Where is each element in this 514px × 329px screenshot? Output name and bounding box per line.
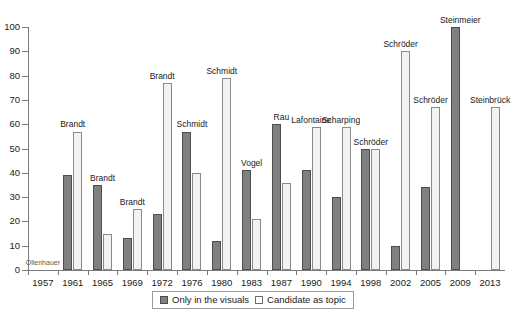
bar-annotation-label: Ollenhauer <box>13 258 73 267</box>
x-tick <box>386 270 387 275</box>
x-tick <box>326 270 327 275</box>
x-tick-label: 1980 <box>207 278 237 288</box>
x-tick <box>147 270 148 275</box>
x-tick-label: 1983 <box>237 278 267 288</box>
legend-label-topic: Candidate as topic <box>267 294 346 305</box>
x-tick <box>177 270 178 275</box>
x-tick-label: 1976 <box>177 278 207 288</box>
x-tick <box>267 270 268 275</box>
bar-annotation-label: Vogel <box>222 159 282 168</box>
bar-candidate-as-topic <box>431 107 440 270</box>
y-tick-label: 10 <box>0 241 20 251</box>
bar-only-in-the-visuals <box>451 27 460 270</box>
x-tick <box>207 270 208 275</box>
bar-annotation-label: Brandt <box>73 174 133 183</box>
x-tick <box>296 270 297 275</box>
x-tick-label: 2013 <box>475 278 505 288</box>
bar-candidate-as-topic <box>163 83 172 270</box>
x-tick-label: 1998 <box>356 278 386 288</box>
bar-candidate-as-topic <box>103 234 112 270</box>
x-tick-label: 2005 <box>415 278 445 288</box>
chart-legend: Only in the visuals Candidate as topic <box>152 291 354 309</box>
bar-annotation-label: Steinmeier <box>430 16 490 25</box>
x-tick <box>117 270 118 275</box>
bar-only-in-the-visuals <box>212 241 221 270</box>
bar-annotation-label: Brandt <box>132 72 192 81</box>
bar-candidate-as-topic <box>401 51 410 270</box>
y-tick-label: 60 <box>0 119 20 129</box>
bar-annotation-label: Schröder <box>371 40 431 49</box>
x-tick-label: 2002 <box>386 278 416 288</box>
bar-annotation-label: Schröder <box>341 138 401 147</box>
bar-candidate-as-topic <box>342 127 351 270</box>
x-tick <box>445 270 446 275</box>
bar-only-in-the-visuals <box>182 132 191 271</box>
legend-item-visuals: Only in the visuals <box>160 294 249 305</box>
x-tick <box>58 270 59 275</box>
bar-only-in-the-visuals <box>272 124 281 270</box>
bar-candidate-as-topic <box>312 127 321 270</box>
x-tick <box>28 270 29 275</box>
x-tick-label: 1972 <box>147 278 177 288</box>
x-tick <box>356 270 357 275</box>
bar-only-in-the-visuals <box>332 197 341 270</box>
bar-candidate-as-topic <box>73 132 82 271</box>
x-tick-label: 1969 <box>117 278 147 288</box>
bar-candidate-as-topic <box>282 183 291 270</box>
plot-area <box>28 27 505 270</box>
bar-only-in-the-visuals <box>421 187 430 270</box>
y-tick-label: 20 <box>0 216 20 226</box>
bar-annotation-label: Schmidt <box>162 120 222 129</box>
y-tick-label: 40 <box>0 168 20 178</box>
bar-annotation-label: Schmidt <box>192 67 252 76</box>
legend-swatch-visuals-icon <box>160 296 168 304</box>
x-tick-label: 1961 <box>58 278 88 288</box>
x-tick-label: 1987 <box>266 278 296 288</box>
bar-annotation-label: Scharping <box>311 116 371 125</box>
x-tick <box>88 270 89 275</box>
x-tick-label: 1965 <box>88 278 118 288</box>
x-tick-label: 2009 <box>445 278 475 288</box>
legend-label-visuals: Only in the visuals <box>172 294 249 305</box>
x-tick <box>416 270 417 275</box>
bar-candidate-as-topic <box>491 107 500 270</box>
y-tick-label: 70 <box>0 95 20 105</box>
chart-figure: 0102030405060708090100 19571961196519691… <box>0 0 514 329</box>
bar-only-in-the-visuals <box>302 170 311 270</box>
legend-item-topic: Candidate as topic <box>255 294 346 305</box>
bar-annotation-label: Schröder <box>400 96 460 105</box>
bar-candidate-as-topic <box>371 149 380 271</box>
bar-candidate-as-topic <box>133 209 142 270</box>
bar-only-in-the-visuals <box>391 246 400 270</box>
bar-only-in-the-visuals <box>153 214 162 270</box>
bar-only-in-the-visuals <box>361 149 370 271</box>
bar-annotation-label: Brandt <box>43 120 103 129</box>
bar-only-in-the-visuals <box>63 175 72 270</box>
bar-only-in-the-visuals <box>242 170 251 270</box>
y-tick-label: 100 <box>0 22 20 32</box>
bar-candidate-as-topic <box>192 173 201 270</box>
x-tick <box>237 270 238 275</box>
bar-candidate-as-topic <box>222 78 231 270</box>
y-tick-label: 80 <box>0 71 20 81</box>
bar-annotation-label: Brandt <box>102 198 162 207</box>
x-tick <box>475 270 476 275</box>
bar-candidate-as-topic <box>252 219 261 270</box>
x-tick-label: 1990 <box>296 278 326 288</box>
bar-only-in-the-visuals <box>93 185 102 270</box>
y-tick-label: 50 <box>0 144 20 154</box>
bar-only-in-the-visuals <box>123 238 132 270</box>
y-tick-label: 90 <box>0 46 20 56</box>
bar-annotation-label: Steinbrück <box>460 96 514 105</box>
x-tick-label: 1957 <box>28 278 58 288</box>
x-tick-label: 1994 <box>326 278 356 288</box>
legend-swatch-topic-icon <box>255 296 263 304</box>
y-tick-label: 30 <box>0 192 20 202</box>
